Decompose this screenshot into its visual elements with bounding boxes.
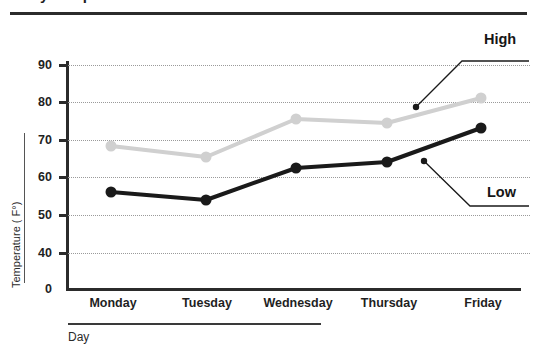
series-point-low-wednesday [291,163,302,174]
series-point-high-thursday [382,118,393,129]
xtick-label-friday: Friday [464,296,502,310]
chart-figure: Daily Temperatures 90 80 70 60 50 40 0 T… [0,0,537,358]
series-point-low-thursday [382,157,393,168]
callout-leader-high [413,61,529,110]
xtick-label-wednesday: Wednesday [263,296,332,310]
xtick-label-tuesday: Tuesday [182,296,232,310]
series-point-high-friday [476,93,487,104]
series-point-high-monday [106,141,117,152]
x-axis-label-rule [68,323,321,325]
series-point-low-friday [476,123,487,134]
series-point-high-tuesday [201,152,212,163]
callout-label-low: Low [487,184,516,200]
series-point-low-monday [106,187,117,198]
xtick-label-thursday: Thursday [361,296,417,310]
series-point-low-tuesday [201,195,212,206]
callout-label-high: High [484,31,516,47]
xtick-label-monday: Monday [89,296,136,310]
series-point-high-wednesday [291,114,302,125]
x-axis-label: Day [68,330,89,344]
